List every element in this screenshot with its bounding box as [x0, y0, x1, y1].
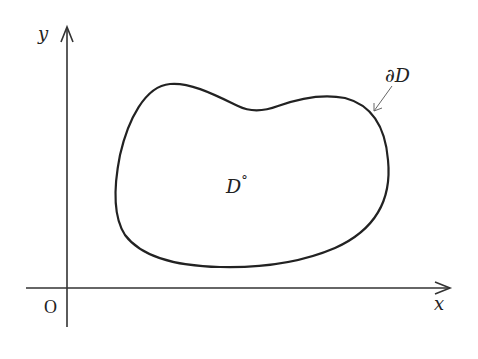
y-axis [61, 27, 73, 327]
interior-label: D° [225, 173, 248, 197]
y-axis-label: y [37, 23, 49, 44]
interior-label-superscript: ° [241, 173, 248, 188]
domain-boundary-curve [115, 84, 388, 267]
x-axis [26, 282, 450, 294]
domain-diagram: y x O D° ∂D [0, 0, 478, 359]
boundary-label: ∂D [385, 64, 410, 86]
x-axis-label: x [434, 293, 444, 314]
boundary-pointer-arrow [374, 86, 392, 111]
interior-label-main: D [225, 175, 241, 197]
origin-label: O [44, 297, 57, 317]
